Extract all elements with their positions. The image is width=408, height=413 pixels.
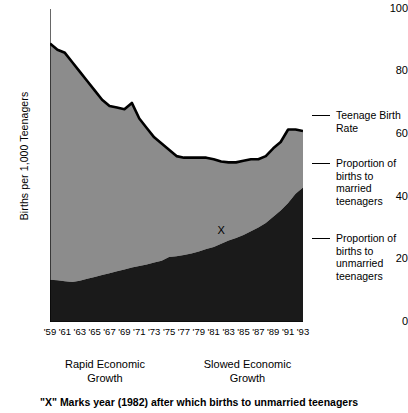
x-tick-label-77: '77 [178, 326, 190, 337]
legend-rule-unmarried [312, 238, 330, 239]
legend-line-3: married [336, 182, 396, 195]
legend-rule-teenage-birth-rate [312, 115, 330, 116]
x-tick-label-71: '71 [133, 326, 145, 337]
x-tick-label-81: '81 [207, 326, 219, 337]
x-tick-label-69: '69 [118, 326, 130, 337]
x-tick-label-79: '79 [193, 326, 205, 337]
legend-line-1: Proportion of [336, 232, 396, 245]
x-tick-label-75: '75 [163, 326, 175, 337]
era-line-1: Slowed Economic [175, 357, 320, 371]
chart-figure: Births per 1,000 Teenagers 100 80 60 40 … [0, 0, 408, 413]
era-line-2: Growth [40, 371, 170, 385]
legend-line-1: Teenage Birth [336, 109, 401, 122]
x-tick-label-83: '83 [222, 326, 234, 337]
y-tick-label-100: 100 [364, 2, 408, 14]
x-marker-annotation: X [217, 224, 225, 236]
y-tick-label-0: 0 [364, 315, 408, 327]
x-tick-label-89: '89 [267, 326, 279, 337]
x-tick-label-59: '59 [44, 326, 56, 337]
legend-label-married: Proportion of births to married teenager… [336, 157, 396, 207]
x-tick-label-91: '91 [282, 326, 294, 337]
chart-caption: "X" Marks year (1982) after which births… [40, 396, 400, 408]
y-tick-label-80: 80 [364, 64, 408, 76]
x-tick-label-85: '85 [237, 326, 249, 337]
legend-line-1: Proportion of [336, 157, 396, 170]
legend-line-2: births to [336, 245, 396, 258]
chart-canvas: X [50, 9, 303, 322]
legend-line-2: births to [336, 170, 396, 183]
stacked-areas [50, 43, 303, 322]
legend-line-2: Rate [336, 122, 401, 135]
x-tick-label-87: '87 [252, 326, 264, 337]
legend-rule-married [312, 163, 330, 164]
y-axis-title: Births per 1,000 Teenagers [18, 46, 30, 266]
x-tick-label-65: '65 [88, 326, 100, 337]
plot-area: X [50, 9, 303, 322]
era-line-2: Growth [175, 371, 320, 385]
legend-line-3: unmarried [336, 257, 396, 270]
era-line-1: Rapid Economic [40, 357, 170, 371]
x-axis-labels: '59'61'63'65'67'69'71'73'75'77'79'81'83'… [50, 326, 303, 342]
legend-label-teenage-birth-rate: Teenage Birth Rate [336, 109, 401, 134]
x-tick-label-61: '61 [59, 326, 71, 337]
x-tick-label-63: '63 [74, 326, 86, 337]
x-tick-label-93: '93 [297, 326, 309, 337]
legend-line-4: teenagers [336, 270, 396, 283]
era-label-slowed-growth: Slowed Economic Growth [175, 357, 320, 385]
era-label-rapid-growth: Rapid Economic Growth [40, 357, 170, 385]
legend-line-4: teenagers [336, 195, 396, 208]
legend-label-unmarried: Proportion of births to unmarried teenag… [336, 232, 396, 282]
x-marker-glyph: X [217, 224, 225, 236]
x-tick-label-73: '73 [148, 326, 160, 337]
x-tick-label-67: '67 [103, 326, 115, 337]
